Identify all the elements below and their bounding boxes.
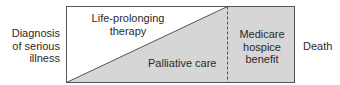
life-prolonging-therapy-label: Life-prolonging therapy	[78, 12, 178, 37]
hospice-line-3: benefit	[230, 53, 294, 66]
medicare-hospice-label: Medicare hospice benefit	[230, 28, 294, 66]
life-prolonging-line-1: Life-prolonging	[78, 12, 178, 25]
palliative-care-label: Palliative care	[148, 57, 216, 70]
hospice-line-1: Medicare	[230, 28, 294, 41]
death-label: Death	[303, 40, 332, 53]
life-prolonging-line-2: therapy	[78, 25, 178, 38]
hospice-line-2: hospice	[230, 41, 294, 54]
